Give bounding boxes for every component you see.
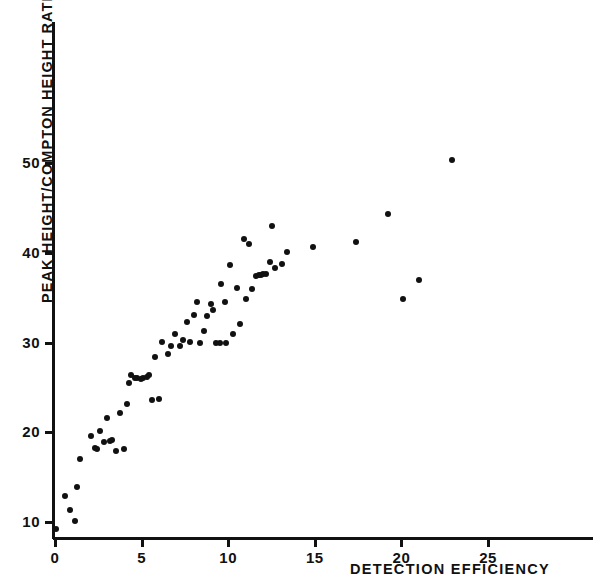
data-point xyxy=(256,272,262,278)
data-point xyxy=(258,272,264,278)
data-point xyxy=(97,428,103,434)
y-tick-label-20: 20 xyxy=(0,423,40,440)
data-point xyxy=(184,319,190,325)
data-point xyxy=(222,299,228,305)
x-tick-25 xyxy=(487,538,490,547)
data-point xyxy=(416,277,422,283)
data-point xyxy=(121,446,127,452)
data-point xyxy=(134,375,140,381)
data-point xyxy=(109,437,115,443)
x-tick-label-10: 10 xyxy=(208,549,248,566)
y-axis-title: PEAK HEIGHT/COMPTON HEIGHT RATIO xyxy=(39,33,55,303)
data-point xyxy=(180,337,186,343)
data-point xyxy=(94,446,100,452)
data-point xyxy=(187,339,193,345)
data-point xyxy=(191,312,197,318)
x-tick-label-15: 15 xyxy=(295,549,335,566)
data-point xyxy=(74,484,80,490)
y-tick-10 xyxy=(45,521,54,524)
data-point xyxy=(128,372,134,378)
data-point xyxy=(152,354,158,360)
data-point xyxy=(62,493,68,499)
data-point xyxy=(172,331,178,337)
x-tick-20 xyxy=(400,538,403,547)
data-point xyxy=(126,380,132,386)
data-point xyxy=(234,285,240,291)
data-point xyxy=(227,262,233,268)
data-point xyxy=(165,351,171,357)
data-point xyxy=(263,271,269,277)
x-tick-10 xyxy=(227,538,230,547)
data-point xyxy=(67,507,73,513)
data-point xyxy=(146,372,152,378)
y-tick-label-50: 50 xyxy=(0,154,40,171)
data-point xyxy=(177,343,183,349)
data-point xyxy=(204,313,210,319)
data-point xyxy=(249,286,255,292)
data-point xyxy=(201,328,207,334)
data-point xyxy=(138,376,144,382)
x-tick-5 xyxy=(141,538,144,547)
scatter-points-layer xyxy=(0,0,594,584)
data-point xyxy=(72,518,78,524)
data-point xyxy=(124,401,130,407)
data-point xyxy=(246,241,252,247)
x-axis-line xyxy=(53,537,593,540)
data-point xyxy=(159,339,165,345)
y-tick-label-10: 10 xyxy=(0,513,40,530)
data-point xyxy=(237,321,243,327)
x-tick-0 xyxy=(54,538,57,547)
y-tick-20 xyxy=(45,431,54,434)
data-point xyxy=(101,439,107,445)
x-tick-label-0: 0 xyxy=(35,549,75,566)
data-point xyxy=(168,343,174,349)
data-point xyxy=(194,299,200,305)
x-tick-label-5: 5 xyxy=(122,549,162,566)
data-point xyxy=(140,375,146,381)
data-point xyxy=(253,273,259,279)
data-point xyxy=(223,340,229,346)
data-point xyxy=(241,236,247,242)
data-point xyxy=(132,375,138,381)
data-point xyxy=(230,331,236,337)
data-point xyxy=(77,456,83,462)
data-point xyxy=(197,340,203,346)
y-tick-label-30: 30 xyxy=(0,334,40,351)
scatter-plot-figure: 1020304050 0510152025 PEAK HEIGHT/COMPTO… xyxy=(0,0,594,584)
data-point xyxy=(284,249,290,255)
data-point xyxy=(117,410,123,416)
data-point xyxy=(267,259,273,265)
data-point xyxy=(113,448,119,454)
x-axis-title: DETECTION EFFICIENCY xyxy=(350,561,550,577)
x-tick-15 xyxy=(314,538,317,547)
data-point xyxy=(208,301,214,307)
data-point xyxy=(260,271,266,277)
data-point xyxy=(156,396,162,402)
data-point xyxy=(144,374,150,380)
data-point xyxy=(353,239,359,245)
y-tick-label-40: 40 xyxy=(0,244,40,261)
data-point xyxy=(400,296,406,302)
data-point xyxy=(88,433,94,439)
data-point xyxy=(217,340,223,346)
data-point xyxy=(107,438,113,444)
data-point xyxy=(272,265,278,271)
data-point xyxy=(385,211,391,217)
data-point xyxy=(269,223,275,229)
y-tick-30 xyxy=(45,342,54,345)
data-point xyxy=(149,397,155,403)
data-point xyxy=(92,445,98,451)
data-point xyxy=(213,340,219,346)
data-point xyxy=(279,261,285,267)
data-point xyxy=(243,296,249,302)
data-point xyxy=(449,157,455,163)
data-point xyxy=(104,415,110,421)
data-point xyxy=(218,281,224,287)
data-point xyxy=(210,307,216,313)
data-point xyxy=(310,244,316,250)
